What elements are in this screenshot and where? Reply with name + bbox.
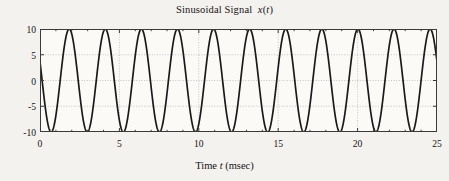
y-tick-label-neg10: -10 xyxy=(2,128,36,138)
plot-area xyxy=(40,29,437,132)
y-tick-label-10: 10 xyxy=(2,25,36,35)
x-tick-label-20: 20 xyxy=(353,139,363,149)
chart-title: Sinusoidal Signal x(t) xyxy=(0,4,449,15)
chart-title-paren-close: ) xyxy=(269,4,273,15)
x-tick-label-10: 10 xyxy=(194,139,204,149)
x-tick-label-15: 15 xyxy=(273,139,283,149)
figure-container: Sinusoidal Signal x(t) 10 5 0 -5 -10 xyxy=(0,0,449,181)
x-axis-label: Time t (msec) xyxy=(0,160,449,171)
x-tick-label-0: 0 xyxy=(38,139,43,149)
x-tick-label-25: 25 xyxy=(432,139,442,149)
plot-svg xyxy=(40,29,437,132)
y-tick-label-5: 5 xyxy=(2,51,36,61)
y-tick-label-neg5: -5 xyxy=(2,102,36,112)
x-tick-label-5: 5 xyxy=(117,139,122,149)
y-tick-label-0: 0 xyxy=(2,77,36,87)
x-axis-label-unit: (msec) xyxy=(223,160,254,171)
y-tick-labels: 10 5 0 -5 -10 xyxy=(0,29,36,132)
x-axis-label-prefix: Time xyxy=(195,160,219,171)
x-tick-labels: 0 5 10 15 20 25 xyxy=(0,139,449,153)
chart-title-text: Sinusoidal Signal xyxy=(176,4,258,15)
